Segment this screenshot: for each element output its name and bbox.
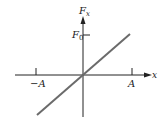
diagram-canvas: Fx F0 −A A x xyxy=(0,0,160,126)
y-axis-arrow-icon xyxy=(81,16,86,24)
x-axis-arrow-icon xyxy=(144,73,152,78)
force-displacement-diagram: Fx F0 −A A x xyxy=(0,0,160,126)
y-axis-label: Fx xyxy=(78,5,90,18)
neg-a-label: −A xyxy=(30,78,46,89)
pos-a-label: A xyxy=(127,78,135,89)
f0-label: F0 xyxy=(71,29,83,42)
x-axis-label: x xyxy=(152,70,157,80)
